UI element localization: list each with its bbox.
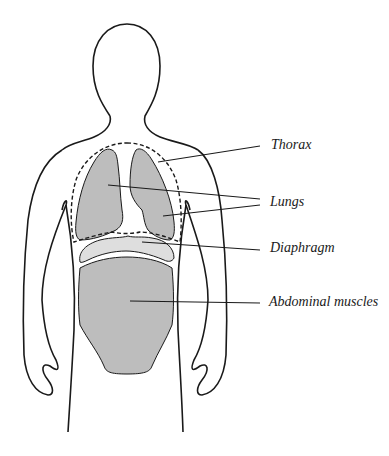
- neck-left-outline: [62, 116, 110, 150]
- right-arm-outline: [185, 150, 226, 395]
- left-torso-outline: [66, 205, 75, 432]
- lungs-leader-line-right: [163, 205, 260, 216]
- body-diagram: [0, 0, 389, 456]
- thorax-label: Thorax: [271, 138, 311, 152]
- head-outline: [93, 24, 198, 150]
- abdominal-muscles-label: Abdominal muscles: [269, 295, 378, 309]
- lungs-label: Lungs: [270, 195, 304, 209]
- left-lung: [76, 149, 123, 240]
- right-lung: [130, 149, 174, 240]
- diaphragm-label: Diaphragm: [270, 241, 335, 255]
- right-torso-outline: [177, 205, 186, 432]
- abdominal-muscles: [79, 257, 174, 374]
- thorax-leader-line: [158, 146, 260, 162]
- left-arm-outline: [23, 150, 66, 395]
